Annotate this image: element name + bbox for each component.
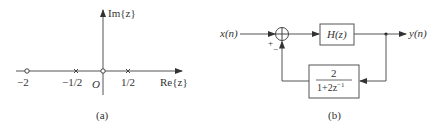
origin-label: O bbox=[92, 78, 100, 90]
figure: Im{z} Re{z} O −2 −1/2 1/2 (a) x(n) bbox=[0, 0, 438, 128]
pole-zero-plot: Im{z} Re{z} O −2 −1/2 1/2 (a) bbox=[16, 7, 188, 122]
feedback-line-right bbox=[360, 34, 386, 81]
block-diagram: x(n) + − H(z) y(n) 2 1+2z−1 (b) bbox=[219, 24, 427, 122]
zero-marker-origin bbox=[101, 69, 105, 73]
zero-marker-neg2 bbox=[25, 69, 29, 73]
imag-axis-label: Im{z} bbox=[108, 7, 136, 19]
input-label: x(n) bbox=[219, 27, 238, 40]
output-label: y(n) bbox=[408, 27, 427, 40]
minus-sign: − bbox=[273, 44, 278, 54]
caption-b: (b) bbox=[328, 109, 341, 122]
real-axis-label: Re{z} bbox=[160, 76, 188, 88]
caption-a: (a) bbox=[96, 109, 109, 122]
feedback-line-left bbox=[282, 42, 309, 82]
forward-block-label: H(z) bbox=[326, 28, 347, 41]
tick-label-neg-half: −1/2 bbox=[62, 76, 82, 88]
tick-label-neg2: −2 bbox=[17, 76, 29, 88]
feedback-numerator: 2 bbox=[331, 67, 337, 79]
summing-junction bbox=[276, 28, 289, 41]
tick-label-half: 1/2 bbox=[121, 76, 135, 88]
